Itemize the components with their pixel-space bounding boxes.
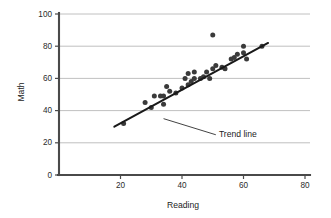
data-point — [164, 84, 169, 89]
x-tick-label-20: 20 — [116, 181, 126, 190]
data-point — [244, 57, 249, 62]
y-tick-label-40: 40 — [43, 106, 53, 115]
annotation-group: Trend line — [164, 119, 257, 139]
trend-line-annotation-label: Trend line — [219, 129, 257, 139]
y-tick-label-80: 80 — [43, 42, 53, 51]
data-point — [204, 69, 209, 74]
data-point — [241, 44, 246, 49]
y-tick-group: 020406080100 — [38, 10, 59, 180]
x-tick-label-40: 40 — [177, 181, 187, 190]
scatter-chart: 020406080100 20406080 Trend line Reading… — [0, 0, 331, 218]
y-tick-label-20: 20 — [43, 138, 53, 147]
data-point — [213, 63, 218, 68]
data-point — [186, 71, 191, 76]
trend-line — [114, 43, 268, 127]
y-tick-label-100: 100 — [38, 10, 52, 19]
data-point — [161, 102, 166, 107]
x-tick-label-80: 80 — [300, 181, 310, 190]
data-point — [235, 52, 240, 57]
annotation-leader-line — [164, 119, 216, 135]
plot-canvas: 020406080100 20406080 Trend line Reading… — [0, 0, 331, 218]
data-point — [210, 32, 215, 37]
y-tick-label-60: 60 — [43, 74, 53, 83]
trend-line-group — [114, 43, 268, 127]
data-point — [192, 69, 197, 74]
data-point — [192, 76, 197, 81]
x-tick-label-60: 60 — [239, 181, 249, 190]
x-tick-group: 20406080 — [116, 175, 310, 190]
x-axis-title: Reading — [167, 200, 199, 210]
y-tick-label-0: 0 — [47, 171, 52, 180]
data-point — [167, 89, 172, 94]
axes-group — [58, 13, 310, 175]
data-point — [152, 94, 157, 99]
data-point — [143, 100, 148, 105]
data-point — [183, 76, 188, 81]
y-axis-title: Math — [16, 82, 26, 101]
